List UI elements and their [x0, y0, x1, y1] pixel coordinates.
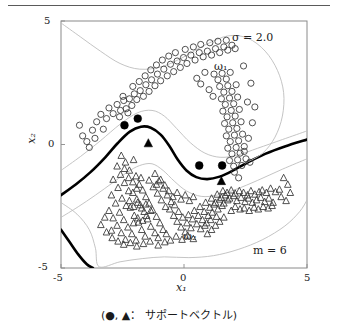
figure-caption: (●, ▲： サポートベクトル): [0, 306, 338, 322]
support-vector-circle: [121, 121, 129, 129]
annotation-m: m = 6: [253, 244, 287, 257]
plot-area: x₂ x₁ 5 0 -5 -5 0 5 σ = 2.0 m = 6 ω₁ ω₂: [0, 0, 338, 300]
support-vector-circle: [218, 162, 226, 170]
y-tick-top: 5: [44, 15, 50, 26]
y-axis-label: x₂: [25, 133, 38, 144]
y-tick-mid: 0: [48, 138, 54, 149]
x-tick-right: 5: [304, 272, 310, 283]
annotation-sigma: σ = 2.0: [232, 31, 273, 44]
y-tick-bottom: -5: [38, 261, 48, 272]
scatter-plot-svg: [0, 0, 338, 300]
x-tick-mid: 0: [180, 272, 186, 283]
x-tick-left: -5: [53, 272, 63, 283]
support-vector-circle: [134, 115, 142, 123]
figure-container: x₂ x₁ 5 0 -5 -5 0 5 σ = 2.0 m = 6 ω₁ ω₂ …: [0, 0, 338, 334]
support-vector-circle: [195, 162, 203, 170]
class-label-omega1: ω₁: [214, 60, 227, 73]
class-label-omega2: ω₂: [183, 230, 196, 243]
